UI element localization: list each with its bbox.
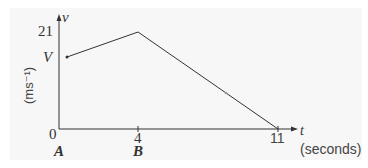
y-units-label: (ms⁻¹) (21, 67, 36, 104)
x-axis-arrow-icon (291, 127, 298, 132)
x-tick-0: 0 (49, 126, 57, 142)
start-point (66, 56, 69, 59)
point-label-B: B (132, 143, 143, 159)
y-axis-label: v (62, 9, 69, 25)
x-tick-11: 11 (270, 130, 285, 146)
velocity-line (67, 32, 278, 129)
velocity-time-graph: v 21 V (ms⁻¹) 0 4 11 t (seconds) A B (0, 0, 368, 168)
y-tick-21: 21 (38, 23, 53, 39)
y-tick-V: V (43, 49, 54, 65)
y-axis-arrow-icon (57, 14, 62, 21)
x-axis-label: t (300, 123, 305, 138)
point-label-A: A (53, 143, 64, 159)
mid-point-marker (225, 92, 228, 95)
x-units-label: (seconds) (300, 141, 361, 157)
chart-root: v 21 V (ms⁻¹) 0 4 11 t (seconds) A B (0, 0, 368, 168)
